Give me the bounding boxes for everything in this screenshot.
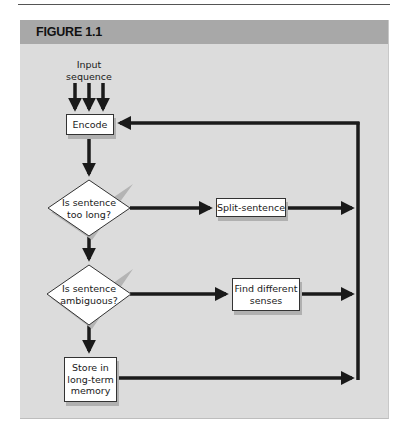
encode-label: Encode bbox=[73, 119, 108, 131]
decision-ambiguous-text: Is sentence ambiguous? bbox=[49, 283, 129, 306]
input-label-line1: Input bbox=[60, 59, 118, 71]
decision-ambiguous-line2: ambiguous? bbox=[49, 295, 129, 307]
decision-too-long-line2: too long? bbox=[49, 209, 129, 221]
store-line1: Store in bbox=[72, 362, 109, 374]
decision-ambiguous-line1: Is sentence bbox=[49, 283, 129, 295]
find-senses-line2: senses bbox=[250, 295, 283, 307]
store-line3: memory bbox=[71, 385, 111, 397]
input-sequence-label: Input sequence bbox=[60, 59, 118, 82]
store-memory-box: Store in long-term memory bbox=[64, 357, 117, 402]
find-senses-line1: Find different bbox=[235, 283, 298, 295]
find-senses-box: Find different senses bbox=[232, 278, 300, 311]
decision-too-long-line1: Is sentence bbox=[49, 197, 129, 209]
encode-box: Encode bbox=[66, 114, 114, 135]
split-sentence-label: Split-sentence bbox=[217, 202, 285, 214]
input-label-line2: sequence bbox=[60, 71, 118, 83]
store-line2: long-term bbox=[67, 374, 114, 386]
split-sentence-box: Split-sentence bbox=[216, 198, 286, 217]
decision-too-long-text: Is sentence too long? bbox=[49, 197, 129, 220]
